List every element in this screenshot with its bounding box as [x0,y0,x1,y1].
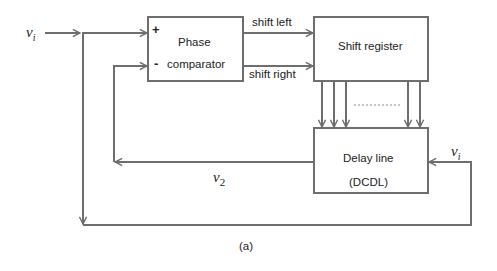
dll-block-diagram: + - Phase comparator Shift register Dela… [0,0,497,271]
phase-comparator-label-1: Phase [178,36,211,48]
shift-right-label: shift right [249,68,296,80]
v2-label: v2 [213,169,225,188]
phase-comparator-label-2: comparator [167,58,225,70]
phase-comparator-block [148,17,243,81]
v2-vertical [114,66,120,162]
shift-left-label: shift left [252,16,292,28]
delay-line-label-2: (DCDL) [349,176,388,188]
plus-sign: + [152,22,160,37]
delay-input-vi-label: vi [451,143,461,162]
figure-caption: (a) [239,240,253,252]
shift-register-label: Shift register [338,40,403,52]
delay-line-label-1: Delay line [343,152,394,164]
input-vi-label: vi [26,24,36,43]
minus-sign: - [154,56,158,71]
